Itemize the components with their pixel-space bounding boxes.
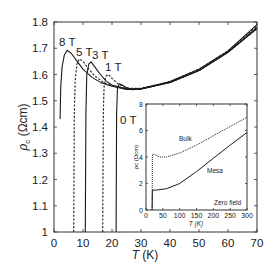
inset-label-zero-field: Zero field: [214, 199, 241, 206]
x-tick-label: 100: [174, 212, 186, 219]
x-tick-label: 50: [159, 212, 167, 219]
y-tick-label: 8: [139, 101, 143, 108]
x-tick-label: 0: [144, 212, 148, 219]
y-tick-label: 1.2: [32, 174, 48, 186]
y-tick-label: 1.1: [32, 200, 48, 212]
y-tick-label: 1.7: [32, 42, 48, 54]
x-tick-label: 0: [51, 237, 57, 249]
x-tick-label: 250: [224, 212, 236, 219]
y-tick-label: 1.3: [32, 147, 48, 159]
label-1t: 1 T: [105, 61, 121, 73]
y-tick-label: 4: [139, 154, 143, 161]
y-tick-label: 1.8: [32, 16, 48, 28]
y-tick-label: 1: [42, 226, 48, 238]
y-tick-label: 1.6: [32, 69, 48, 81]
inset-label-mesa: Mesa: [207, 167, 223, 174]
x-tick-label: 50: [193, 237, 206, 249]
x-tick-label: 300: [241, 212, 253, 219]
y-tick-label: 1.4: [32, 121, 49, 133]
main-y-axis-title: ρc (Ωcm): [16, 103, 32, 151]
y-tick-label: 0: [139, 207, 143, 214]
y-tick-label: 2: [139, 180, 143, 187]
main-x-axis-title: T (K): [132, 248, 159, 262]
y-tick-label: 1.5: [32, 95, 48, 107]
label-3t: 3 T: [92, 49, 108, 61]
label-0t: 0 T: [120, 114, 136, 126]
inset-label-bulk: Bulk: [179, 135, 192, 142]
x-tick-label: 200: [207, 212, 219, 219]
x-tick-label: 10: [77, 237, 90, 249]
x-tick-label: 60: [222, 237, 235, 249]
inset-frame: [146, 104, 247, 210]
x-tick-label: 40: [164, 237, 177, 249]
inset-y-axis-title: ρc (Ωcm): [133, 145, 139, 170]
x-tick-label: 150: [191, 212, 203, 219]
inset-x-axis-title: T (K): [189, 220, 203, 228]
label-8t: 8 T: [59, 36, 75, 48]
y-tick-label: 6: [139, 127, 143, 134]
x-tick-label: 70: [251, 237, 264, 249]
chart-canvas: 01020304050607011.11.21.31.41.51.61.71.8…: [0, 0, 274, 279]
x-tick-label: 20: [106, 237, 119, 249]
label-5t: 5 T: [76, 46, 92, 58]
